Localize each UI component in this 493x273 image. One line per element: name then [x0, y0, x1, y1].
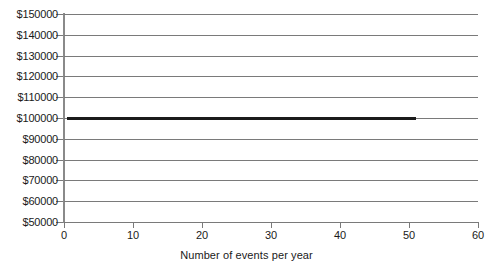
- y-tick-label-wrap: $110000: [0, 92, 58, 103]
- plot-area: [64, 14, 478, 222]
- chart-container: $50000$60000$70000$80000$90000$100000$11…: [0, 0, 493, 273]
- y-tick-label: $90000: [0, 134, 58, 145]
- gridline: [64, 35, 478, 36]
- gridline: [64, 201, 478, 202]
- y-tick-label-wrap: $100000: [0, 113, 58, 124]
- y-tick-label-wrap: $60000: [0, 196, 58, 207]
- y-tick-label-wrap: $50000: [0, 217, 58, 228]
- x-tick-mark: [271, 222, 272, 228]
- y-tick-label-wrap: $150000: [0, 9, 58, 20]
- x-tick-mark: [64, 222, 65, 228]
- y-tick-label: $100000: [0, 113, 58, 124]
- gridline: [64, 160, 478, 161]
- x-tick-mark: [133, 222, 134, 228]
- y-tick-label-wrap: $80000: [0, 155, 58, 166]
- gridline: [64, 76, 478, 77]
- x-tick-label: 40: [325, 229, 355, 241]
- y-tick-label-wrap: $70000: [0, 175, 58, 186]
- y-tick-label: $50000: [0, 217, 58, 228]
- x-tick-mark: [409, 222, 410, 228]
- gridline: [64, 139, 478, 140]
- gridline: [64, 97, 478, 98]
- y-tick-label-wrap: $120000: [0, 71, 58, 82]
- x-tick-label: 50: [394, 229, 424, 241]
- x-tick-label: 0: [49, 229, 79, 241]
- y-tick-label-wrap: $90000: [0, 134, 58, 145]
- gridline: [64, 14, 478, 15]
- y-tick-label-wrap: $140000: [0, 30, 58, 41]
- x-tick-label: 30: [256, 229, 286, 241]
- series-line: [67, 117, 416, 120]
- y-tick-label: $130000: [0, 51, 58, 62]
- y-tick-label: $110000: [0, 92, 58, 103]
- x-axis-title: Number of events per year: [0, 249, 493, 261]
- x-tick-mark: [478, 222, 479, 228]
- y-tick-label: $70000: [0, 175, 58, 186]
- x-tick-label: 10: [118, 229, 148, 241]
- x-tick-label: 20: [187, 229, 217, 241]
- x-tick-mark: [340, 222, 341, 228]
- gridline: [64, 56, 478, 57]
- y-tick-label-wrap: $130000: [0, 51, 58, 62]
- y-tick-label: $140000: [0, 30, 58, 41]
- gridline: [64, 180, 478, 181]
- y-tick-label: $80000: [0, 155, 58, 166]
- y-tick-label: $120000: [0, 71, 58, 82]
- y-tick-label: $150000: [0, 9, 58, 20]
- x-tick-label: 60: [463, 229, 493, 241]
- y-tick-label: $60000: [0, 196, 58, 207]
- x-tick-mark: [202, 222, 203, 228]
